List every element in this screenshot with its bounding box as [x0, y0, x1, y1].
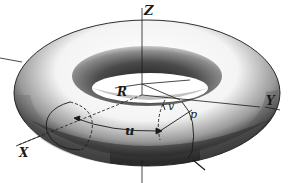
z-axis-label: Z: [143, 3, 154, 18]
v-angle-label: v: [168, 100, 175, 113]
radius-label: R: [116, 85, 127, 99]
torus-hole: [72, 46, 222, 106]
x-axis-label: X: [18, 146, 29, 160]
torus-diagram: Z Y X R u v p: [0, 0, 290, 183]
point-p-label: p: [190, 108, 197, 121]
u-angle-label: u: [125, 123, 134, 138]
y-axis-label: Y: [266, 94, 276, 108]
